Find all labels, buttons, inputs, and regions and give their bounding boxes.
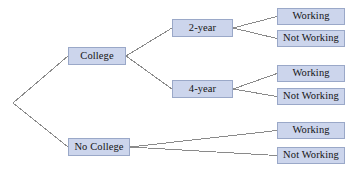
node-work-2yr[interactable]: Working <box>277 8 345 25</box>
tree-diagram: CollegeNo College2-year4-yearWorkingNot … <box>0 0 351 173</box>
node-four-year[interactable]: 4-year <box>172 80 233 98</box>
edge-two-year-to-work-2yr <box>233 17 277 29</box>
node-label-four-year: 4-year <box>189 83 216 94</box>
node-label-work-2yr: Working <box>292 11 329 22</box>
node-label-two-year: 2-year <box>189 22 216 33</box>
edge-two-year-to-notwork-2yr <box>233 28 277 39</box>
node-notwork-4yr[interactable]: Not Working <box>277 88 345 105</box>
node-label-work-nocol: Working <box>292 125 329 136</box>
node-work-4yr[interactable]: Working <box>277 65 345 82</box>
node-notwork-nocol[interactable]: Not Working <box>277 147 345 164</box>
edge-four-year-to-work-4yr <box>233 74 277 90</box>
node-label-notwork-nocol: Not Working <box>283 150 339 161</box>
node-two-year[interactable]: 2-year <box>172 19 233 37</box>
edge-four-year-to-notwork-4yr <box>233 89 277 97</box>
node-notwork-2yr[interactable]: Not Working <box>277 30 345 47</box>
edge-no-college-to-notwork-nocol <box>130 147 277 156</box>
node-no-college[interactable]: No College <box>68 138 130 156</box>
node-label-work-4yr: Working <box>292 68 329 79</box>
node-label-no-college: No College <box>74 141 123 152</box>
node-college[interactable]: College <box>68 47 126 65</box>
node-label-college: College <box>80 50 113 61</box>
edge-college-to-two-year <box>126 28 172 56</box>
node-work-nocol[interactable]: Working <box>277 122 345 139</box>
node-label-notwork-4yr: Not Working <box>283 91 339 102</box>
edge-root-to-no-college <box>13 103 68 147</box>
edge-college-to-four-year <box>126 56 172 89</box>
edge-root-to-college <box>13 56 68 103</box>
edge-no-college-to-work-nocol <box>130 131 277 148</box>
node-label-notwork-2yr: Not Working <box>283 33 339 44</box>
